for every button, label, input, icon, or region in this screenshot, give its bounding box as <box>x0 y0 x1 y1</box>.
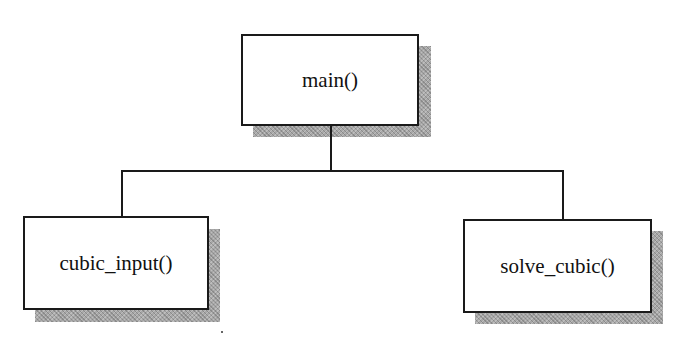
solve-cubic-node-label: solve_cubic() <box>500 254 614 279</box>
cubic-input-node: cubic_input() <box>23 216 209 310</box>
solve-cubic-node: solve_cubic() <box>463 219 652 313</box>
cubic-input-node-label: cubic_input() <box>59 251 172 276</box>
horizontal-bus-connector <box>121 170 564 172</box>
main-node-label: main() <box>302 68 358 93</box>
root-stem-connector <box>330 126 332 172</box>
main-node: main() <box>241 34 419 126</box>
left-child-connector <box>121 170 123 217</box>
scan-speck <box>221 331 223 333</box>
right-child-connector <box>562 170 564 220</box>
